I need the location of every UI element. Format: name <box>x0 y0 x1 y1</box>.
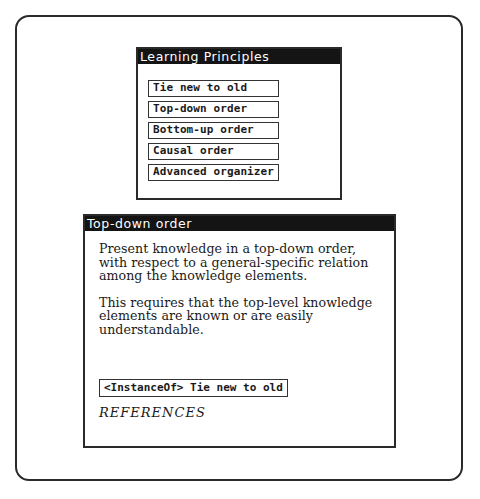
principle-detail-panel: Top-down order Present knowledge in a to… <box>83 214 396 448</box>
principle-button-top-down-order[interactable]: Top-down order <box>148 101 279 118</box>
principle-description: Present knowledge in a top-down order, w… <box>99 242 384 349</box>
description-paragraph: This requires that the top-level knowled… <box>99 296 384 337</box>
principle-button-bottom-up-order[interactable]: Bottom-up order <box>148 122 279 139</box>
principle-detail-title[interactable]: Top-down order <box>85 216 394 231</box>
principle-button-advanced-organizer[interactable]: Advanced organizer <box>148 164 279 181</box>
learning-principles-title[interactable]: Learning Principles <box>138 49 340 64</box>
principle-button-tie-new-to-old[interactable]: Tie new to old <box>148 80 279 97</box>
principle-list: Tie new to old Top-down order Bottom-up … <box>148 80 279 185</box>
references-heading[interactable]: REFERENCES <box>99 405 206 420</box>
instance-of-link-button[interactable]: <InstanceOf> Tie new to old <box>99 379 288 397</box>
learning-principles-panel: Learning Principles Tie new to old Top-d… <box>136 47 342 200</box>
related-links: <InstanceOf> Tie new to old <box>99 376 288 397</box>
principle-button-causal-order[interactable]: Causal order <box>148 143 279 160</box>
description-paragraph: Present knowledge in a top-down order, w… <box>99 242 384 283</box>
